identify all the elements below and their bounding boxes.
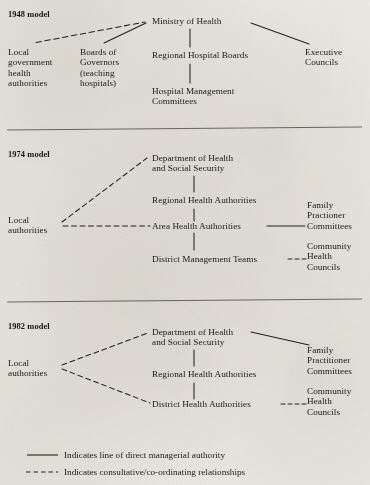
node-1974-regional-health-authorities[interactable]: Regional Health Authorities — [152, 195, 256, 205]
model-heading-1948: 1948 model — [8, 10, 50, 19]
node-1974-community-health-councils[interactable]: Community Health Councils — [307, 241, 351, 272]
line-1948-boardsgov-ministry — [104, 23, 146, 43]
legend-solid-label: Indicates line of direct managerial auth… — [64, 450, 225, 460]
node-1974-district-management-teams[interactable]: District Management Teams — [152, 254, 257, 264]
node-1948-executive-councils[interactable]: Executive Councils — [305, 47, 342, 68]
node-1948-ministry-of-health[interactable]: Ministry of Health — [152, 16, 221, 26]
node-1974-dhss[interactable]: Department of Health and Social Security — [152, 153, 233, 174]
model-heading-1982: 1982 model — [8, 322, 50, 331]
line-1948-localgov-ministry — [36, 22, 145, 43]
node-1948-hospital-management-committees[interactable]: Hospital Management Committees — [152, 86, 234, 107]
node-1948-regional-hospital-boards[interactable]: Regional Hospital Boards — [152, 50, 248, 60]
node-1982-dhss[interactable]: Department of Health and Social Security — [152, 327, 233, 348]
diagram-page: Ministry of Health --> — [0, 0, 370, 485]
node-1974-area-health-authorities[interactable]: Area Health Authorities — [152, 221, 241, 231]
node-1982-community-health-councils[interactable]: Community Health Councils — [307, 386, 351, 417]
node-1974-local-authorities[interactable]: Local authorities — [8, 215, 47, 236]
node-1948-local-government-health-authorities[interactable]: Local government health authorities — [8, 47, 52, 89]
line-1948-ministry-exec — [251, 23, 309, 44]
line-1982-dhss-fpc — [251, 332, 309, 345]
line-1982-localauth-dha — [62, 369, 150, 403]
node-1982-local-authorities[interactable]: Local authorities — [8, 358, 47, 379]
legend-dashed-label: Indicates consultative/co-ordinating rel… — [64, 467, 245, 477]
section-divider-2 — [7, 299, 362, 302]
node-1982-family-practitioner-committees[interactable]: Family Practitioner Committees — [307, 345, 352, 376]
node-1974-family-practioner-committees[interactable]: Family Practioner Committees — [307, 200, 352, 231]
model-heading-1974: 1974 model — [8, 150, 50, 159]
section-divider-1 — [7, 127, 362, 130]
node-1982-district-health-authorities[interactable]: District Health Authorities — [152, 399, 251, 409]
node-1948-boards-of-governors[interactable]: Boards of Governors (teaching hospitals) — [80, 47, 119, 89]
line-1982-localauth-dhss — [62, 333, 148, 365]
line-1974-localauth-dhss — [62, 158, 147, 222]
node-1982-regional-health-authorities[interactable]: Regional Health Authorities — [152, 369, 256, 379]
